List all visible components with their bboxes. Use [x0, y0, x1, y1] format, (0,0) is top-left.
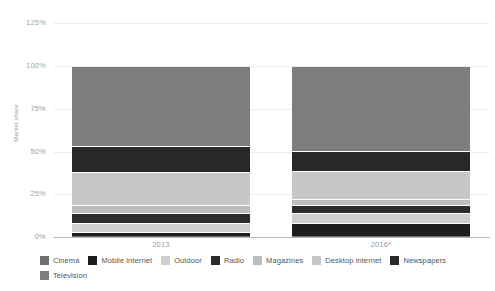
- legend-swatch-icon: [211, 256, 220, 265]
- bar-segment-newspapers[interactable]: [72, 147, 250, 172]
- stacked-bar-chart: Market share 125%100%75%50%25%0% 2013201…: [0, 0, 495, 291]
- bar-segment-magazines[interactable]: [292, 200, 470, 205]
- y-tick-label: 50%: [0, 147, 46, 156]
- legend-item-magazines[interactable]: Magazines: [253, 255, 303, 266]
- legend-swatch-icon: [161, 256, 170, 265]
- x-axis-line: [53, 237, 490, 238]
- bar-segment-radio[interactable]: [292, 206, 470, 214]
- bar-segment-cinema[interactable]: [292, 236, 470, 237]
- bar-segment-outdoor[interactable]: [292, 214, 470, 222]
- legend-swatch-icon: [253, 256, 262, 265]
- bar-segment-television[interactable]: [292, 67, 470, 151]
- legend-swatch-icon: [390, 256, 399, 265]
- legend-item-mobile-internet[interactable]: Mobile internet: [88, 255, 152, 266]
- plot-area: Market share 125%100%75%50%25%0% 2013201…: [0, 0, 495, 250]
- bar-segment-magazines[interactable]: [72, 206, 250, 214]
- y-tick-label: 25%: [0, 189, 46, 198]
- bar-2016[interactable]: [292, 66, 470, 237]
- legend-label: Cinema: [53, 256, 79, 265]
- bar-segment-outdoor[interactable]: [72, 224, 250, 232]
- bar-segment-desktop-internet[interactable]: [72, 173, 250, 205]
- y-tick-label: 100%: [0, 61, 46, 70]
- legend-label: Desktop internet: [325, 256, 381, 265]
- bar-segment-radio[interactable]: [72, 214, 250, 222]
- legend-item-radio[interactable]: Radio: [211, 255, 244, 266]
- bar-2013[interactable]: [72, 66, 250, 237]
- legend-swatch-icon: [40, 271, 49, 280]
- legend-label: Television: [53, 271, 87, 280]
- y-tick-label: 0%: [0, 232, 46, 241]
- chart-legend: CinemaMobile internetOutdoorRadioMagazin…: [40, 255, 490, 285]
- y-tick-label: 75%: [0, 104, 46, 113]
- bar-segment-newspapers[interactable]: [292, 152, 470, 172]
- legend-label: Magazines: [266, 256, 303, 265]
- legend-label: Newspapers: [403, 256, 446, 265]
- bar-segment-television[interactable]: [72, 67, 250, 146]
- x-tick-label: 2016*: [292, 240, 470, 249]
- legend-swatch-icon: [312, 256, 321, 265]
- legend-label: Outdoor: [174, 256, 202, 265]
- legend-label: Radio: [224, 256, 244, 265]
- gridline: [53, 23, 490, 24]
- legend-swatch-icon: [88, 256, 97, 265]
- legend-item-desktop-internet[interactable]: Desktop internet: [312, 255, 381, 266]
- y-tick-label: 125%: [0, 18, 46, 27]
- legend-item-cinema[interactable]: Cinema: [40, 255, 79, 266]
- legend-label: Mobile internet: [101, 256, 152, 265]
- bar-segment-cinema[interactable]: [72, 236, 250, 237]
- x-tick-label: 2013: [72, 240, 250, 249]
- legend-swatch-icon: [40, 256, 49, 265]
- bar-segment-desktop-internet[interactable]: [292, 172, 470, 198]
- bar-segment-mobile-internet[interactable]: [292, 224, 470, 236]
- legend-item-outdoor[interactable]: Outdoor: [161, 255, 202, 266]
- legend-item-newspapers[interactable]: Newspapers: [390, 255, 446, 266]
- legend-item-television[interactable]: Television: [40, 270, 87, 281]
- bar-segment-mobile-internet[interactable]: [72, 233, 250, 236]
